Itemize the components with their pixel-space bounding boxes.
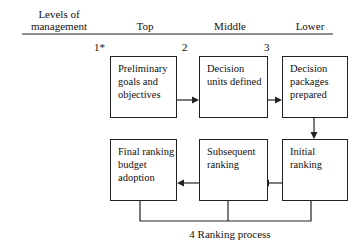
box-subsequent-ranking: Subsequent ranking	[199, 139, 268, 201]
ranking-process-caption: 4 Ranking process	[170, 228, 290, 240]
arrow-right-icon	[192, 97, 199, 104]
box-initial-ranking: Initial ranking	[282, 139, 348, 201]
box-decision-units: Decision units defined	[199, 56, 268, 118]
box-decision-packages: Decision packages prepared	[282, 56, 348, 118]
connector-lines	[0, 0, 356, 246]
box-preliminary-goals: Preliminary goals and objectives	[110, 56, 177, 118]
arrow-left-icon	[177, 180, 184, 187]
box-final-ranking: Final ranking budget adoption	[110, 139, 177, 201]
arrow-right-icon	[275, 97, 282, 104]
ranking-bracket	[140, 200, 311, 221]
arrow-down-icon	[311, 132, 318, 139]
